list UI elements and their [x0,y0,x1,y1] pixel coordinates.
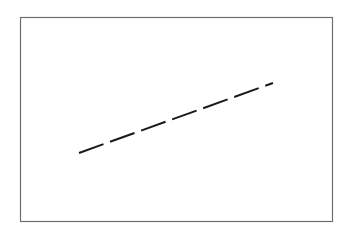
diagram-canvas [0,0,349,232]
dashed-line [79,83,273,153]
frame-border [21,18,333,222]
diagram-svg [0,0,349,232]
